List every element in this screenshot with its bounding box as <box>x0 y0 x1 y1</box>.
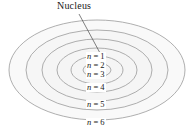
nucleus-label: Nucleus <box>57 0 91 11</box>
shell-label-value: = 4 <box>91 82 104 92</box>
bohr-model-figure: Nucleus n = 1n = 2n = 3n = 4n = 5n = 6 <box>0 0 193 135</box>
shell-label-n5: n = 5 <box>86 100 106 109</box>
shell-label-value: = 5 <box>91 99 104 109</box>
shell-label-value: = 3 <box>91 69 104 79</box>
shell-label-n6: n = 6 <box>86 118 106 127</box>
shell-label-n3: n = 3 <box>86 70 106 79</box>
shell-label-n4: n = 4 <box>86 83 106 92</box>
shell-label-value: = 6 <box>91 117 104 127</box>
